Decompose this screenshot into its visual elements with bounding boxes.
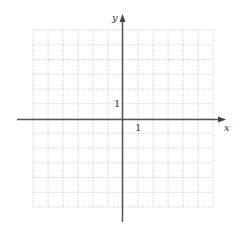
y-tick-label: 1 xyxy=(114,99,120,109)
coordinate-plane xyxy=(0,0,245,237)
y-axis-arrow-icon xyxy=(120,14,126,22)
x-axis-label: x xyxy=(224,123,230,133)
y-axis-label: y xyxy=(112,13,118,23)
x-tick-label: 1 xyxy=(135,123,141,133)
